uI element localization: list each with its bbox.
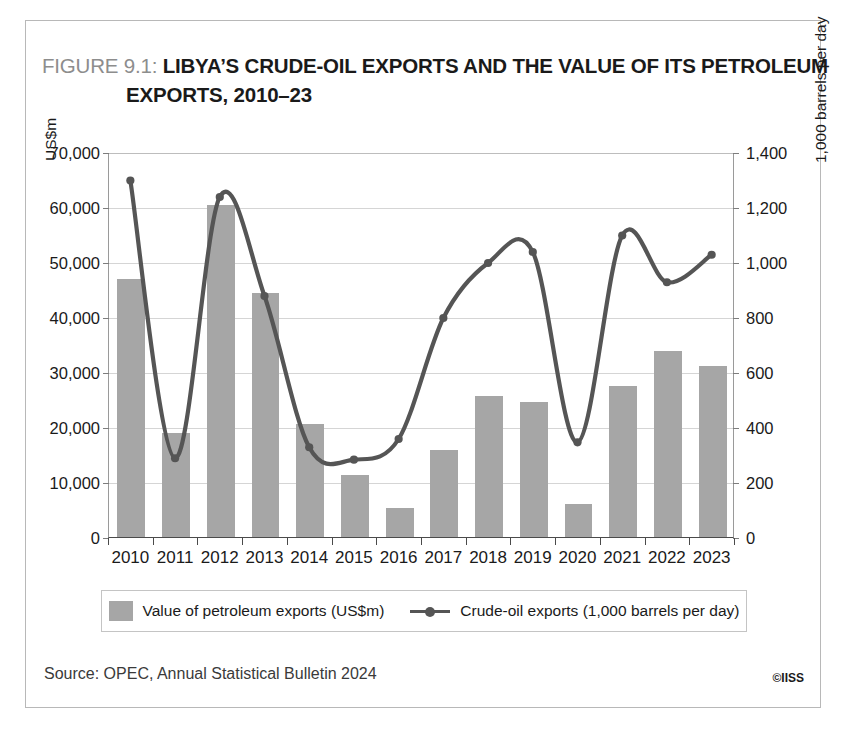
line-marker-icon: [410, 605, 450, 617]
left-axis-tick-labels: 010,00020,00030,00040,00050,00060,00070,…: [18, 153, 100, 538]
figure-frame: FIGURE 9.1: LIBYA’S CRUDE-OIL EXPORTS AN…: [25, 20, 821, 708]
bar-2011: [162, 433, 190, 537]
bar-2016: [386, 508, 414, 537]
left-axis-label: 10,000: [50, 474, 100, 493]
x-axis-tick: [689, 538, 690, 545]
right-axis-tick: [733, 483, 739, 484]
left-axis-tick: [103, 263, 109, 264]
x-axis-tick: [108, 538, 109, 545]
right-axis-label: 0: [746, 529, 755, 548]
gridline: [109, 318, 733, 319]
bar-2018: [475, 396, 503, 537]
legend-label-bar: Value of petroleum exports (US$m): [143, 602, 385, 620]
bar-2019: [520, 402, 548, 537]
x-axis-tick: [332, 538, 333, 545]
x-axis-label-2017: 2017: [424, 548, 462, 568]
bar-2014: [296, 424, 324, 537]
right-axis-tick: [733, 373, 739, 374]
x-axis-label-2011: 2011: [157, 548, 194, 568]
gridline: [109, 208, 733, 209]
x-axis-label-2012: 2012: [201, 548, 239, 568]
x-axis-ticks: [108, 538, 734, 548]
bar-2012: [207, 205, 235, 537]
x-axis-tick: [600, 538, 601, 545]
gridline: [109, 153, 733, 154]
bar-2020: [565, 504, 593, 537]
bar-2022: [654, 351, 682, 537]
x-axis-tick: [555, 538, 556, 545]
right-axis-label: 1,000: [746, 254, 787, 273]
left-axis-tick: [103, 153, 109, 154]
left-axis-label: 40,000: [50, 309, 100, 328]
left-axis-label: 50,000: [50, 254, 100, 273]
gridline: [109, 263, 733, 264]
left-axis-tick: [103, 318, 109, 319]
bar-2021: [609, 386, 637, 537]
bar-2013: [252, 293, 280, 537]
x-axis-tick: [734, 538, 735, 545]
right-axis-tick: [733, 428, 739, 429]
x-axis-tick: [287, 538, 288, 545]
left-axis-tick: [103, 483, 109, 484]
right-axis-tick: [733, 208, 739, 209]
right-axis-label: 400: [746, 419, 774, 438]
x-axis-label-2023: 2023: [693, 548, 731, 568]
x-axis-tick-labels: 2010201120122013201420152016201720182019…: [108, 548, 734, 576]
x-axis-tick: [645, 538, 646, 545]
left-axis-label: 0: [91, 529, 100, 548]
right-axis-tick: [733, 153, 739, 154]
right-axis-tick: [733, 263, 739, 264]
x-axis-label-2019: 2019: [514, 548, 552, 568]
x-axis-label-2018: 2018: [469, 548, 507, 568]
bar-2023: [699, 366, 727, 537]
source-note: Source: OPEC, Annual Statistical Bulleti…: [44, 665, 377, 683]
left-axis-tick: [103, 428, 109, 429]
right-axis-tick: [733, 318, 739, 319]
right-axis-label: 1,400: [746, 144, 787, 163]
x-axis-tick: [510, 538, 511, 545]
left-axis-label: 20,000: [50, 419, 100, 438]
bar-2017: [430, 450, 458, 537]
x-axis-label-2015: 2015: [335, 548, 373, 568]
left-axis-label: 70,000: [50, 144, 100, 163]
x-axis-label-2013: 2013: [246, 548, 284, 568]
bar-2015: [341, 475, 369, 537]
x-axis-tick: [466, 538, 467, 545]
right-axis-label: 800: [746, 309, 774, 328]
bar-2010: [117, 279, 145, 538]
left-axis-label: 60,000: [50, 199, 100, 218]
plot-area: [108, 153, 734, 538]
x-axis-tick: [421, 538, 422, 545]
x-axis-tick: [153, 538, 154, 545]
copyright-label: ©IISS: [772, 671, 804, 685]
x-axis-label-2016: 2016: [380, 548, 418, 568]
right-axis-label: 200: [746, 474, 774, 493]
x-axis-label-2021: 2021: [603, 548, 641, 568]
bar-swatch-icon: [109, 601, 133, 621]
left-axis-tick: [103, 373, 109, 374]
gridline: [109, 428, 733, 429]
right-axis-label: 1,200: [746, 199, 787, 218]
chart-legend: Value of petroleum exports (US$m) Crude-…: [101, 590, 747, 632]
left-axis-tick: [103, 208, 109, 209]
x-axis-tick: [242, 538, 243, 545]
right-axis-label: 600: [746, 364, 774, 383]
x-axis-label-2022: 2022: [648, 548, 686, 568]
x-axis-label-2020: 2020: [559, 548, 597, 568]
legend-item-line: Crude-oil exports (1,000 barrels per day…: [410, 602, 739, 620]
left-axis-label: 30,000: [50, 364, 100, 383]
chart-area: US$m 1,000 barrels per day 010,00020,000…: [26, 21, 822, 709]
right-axis-tick-labels: 02004006008001,0001,2001,400: [746, 153, 816, 538]
x-axis-tick: [197, 538, 198, 545]
x-axis-tick: [376, 538, 377, 545]
gridline: [109, 483, 733, 484]
right-axis-title: 1,000 barrels per day: [812, 17, 830, 163]
x-axis-label-2010: 2010: [111, 548, 149, 568]
gridline: [109, 373, 733, 374]
x-axis-label-2014: 2014: [290, 548, 328, 568]
legend-item-bar: Value of petroleum exports (US$m): [109, 601, 385, 621]
legend-label-line: Crude-oil exports (1,000 barrels per day…: [460, 602, 739, 620]
